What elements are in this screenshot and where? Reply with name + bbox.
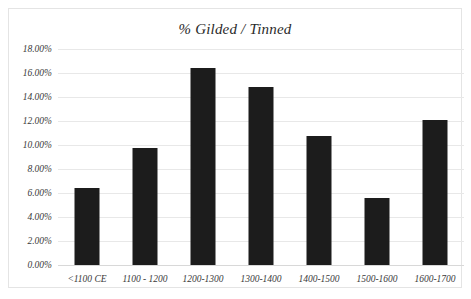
x-axis-tick-label: 1400-1500 bbox=[298, 274, 339, 284]
x-axis-tick-label: <1100 CE bbox=[67, 274, 106, 284]
bar bbox=[423, 120, 448, 265]
y-axis-tick-label: 10.00% bbox=[23, 140, 52, 150]
y-axis-tick-label: 16.00% bbox=[23, 68, 52, 78]
x-axis-tick-label: 1100 - 1200 bbox=[122, 274, 167, 284]
bar-group: 1400-1500 bbox=[290, 49, 348, 265]
x-axis-tick-label: 1300-1400 bbox=[240, 274, 281, 284]
x-axis-tick-label: 1500-1600 bbox=[356, 274, 397, 284]
bar-group: <1100 CE bbox=[58, 49, 116, 265]
plot-area: 0.00%2.00%4.00%6.00%8.00%10.00%12.00%14.… bbox=[58, 49, 464, 265]
y-axis-tick-label: 12.00% bbox=[23, 116, 52, 126]
bar bbox=[249, 87, 274, 265]
y-axis-tick-label: 8.00% bbox=[27, 164, 52, 174]
gridline bbox=[58, 265, 464, 266]
bar-group: 1600-1700 bbox=[406, 49, 464, 265]
x-axis-tick-label: 1200-1300 bbox=[182, 274, 223, 284]
y-axis-tick-label: 4.00% bbox=[27, 212, 52, 222]
bar bbox=[191, 68, 216, 265]
bar bbox=[133, 148, 158, 265]
bar-group: 1500-1600 bbox=[348, 49, 406, 265]
chart-title: % Gilded / Tinned bbox=[9, 21, 461, 38]
bar-group: 1100 - 1200 bbox=[116, 49, 174, 265]
y-axis-tick-label: 0.00% bbox=[27, 260, 52, 270]
bar bbox=[75, 188, 100, 265]
bar bbox=[307, 136, 332, 265]
bar-series: <1100 CE1100 - 12001200-13001300-1400140… bbox=[58, 49, 464, 265]
bar-group: 1200-1300 bbox=[174, 49, 232, 265]
chart-container: % Gilded / Tinned 0.00%2.00%4.00%6.00%8.… bbox=[8, 8, 462, 288]
x-axis-tick-label: 1600-1700 bbox=[414, 274, 455, 284]
y-axis-tick-label: 2.00% bbox=[27, 236, 52, 246]
y-axis-tick-label: 18.00% bbox=[23, 44, 52, 54]
y-axis-tick-label: 14.00% bbox=[23, 92, 52, 102]
bar bbox=[365, 198, 390, 265]
y-axis-tick-label: 6.00% bbox=[27, 188, 52, 198]
bar-group: 1300-1400 bbox=[232, 49, 290, 265]
